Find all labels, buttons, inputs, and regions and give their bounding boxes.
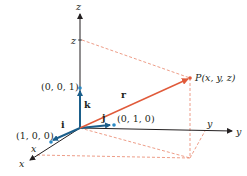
point-100-label: (1, 0, 0) — [16, 130, 54, 141]
i-label: i — [61, 119, 65, 130]
point-001-marker — [78, 86, 82, 90]
z-coordinate-mark: z — [70, 35, 77, 46]
y-axis-label: y — [235, 126, 242, 137]
point-P-label: P(x, y, z) — [194, 72, 236, 83]
k-label: k — [84, 99, 91, 110]
r-label: r — [121, 89, 127, 100]
point-001-label: (0, 0, 1) — [41, 81, 79, 92]
coordinate-diagram: z z (0, 0, 1) k r P(x, y, z) j (0, 1, 0)… — [0, 0, 247, 176]
point-010-label: (0, 1, 0) — [117, 113, 155, 124]
point-010-marker — [112, 123, 116, 127]
x-coordinate-mark: x — [31, 143, 37, 154]
point-P-marker — [188, 76, 192, 80]
i-vector — [53, 128, 80, 140]
x-axis-label: x — [19, 158, 25, 169]
j-label: j — [101, 112, 105, 123]
z-axis-label: z — [75, 1, 82, 12]
y-coordinate-mark: y — [206, 118, 213, 129]
